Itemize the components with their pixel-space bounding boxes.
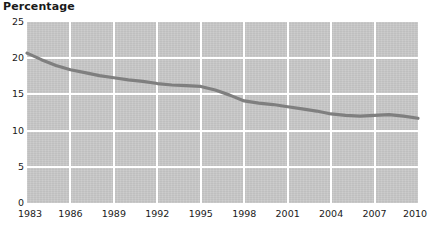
y-tick-label: 10: [2, 126, 24, 136]
plot-area: [27, 22, 418, 203]
series-line-percentage: [27, 22, 418, 203]
x-tick-label: 1995: [184, 208, 218, 219]
x-tick-label: 1998: [227, 208, 261, 219]
y-tick-label: 25: [2, 17, 24, 27]
y-axis-tick-labels: 2520151050: [0, 22, 24, 203]
chart-title: Percentage: [3, 0, 75, 14]
x-axis-tick-labels: 1983198619891992199519982001200420072010: [27, 208, 418, 222]
y-tick-label: 20: [2, 53, 24, 63]
x-tick-label: 2004: [314, 208, 348, 219]
y-tick-label: 15: [2, 89, 24, 99]
x-tick-label: 1992: [140, 208, 174, 219]
y-tick-label: 0: [2, 198, 24, 208]
x-tick-label: 2010: [398, 208, 432, 219]
x-tick-label: 2001: [271, 208, 305, 219]
x-tick-label: 1986: [53, 208, 87, 219]
x-tick-label: 1989: [97, 208, 131, 219]
x-tick-label: 2007: [358, 208, 392, 219]
x-tick-label: 1983: [13, 208, 47, 219]
y-tick-label: 5: [2, 162, 24, 172]
